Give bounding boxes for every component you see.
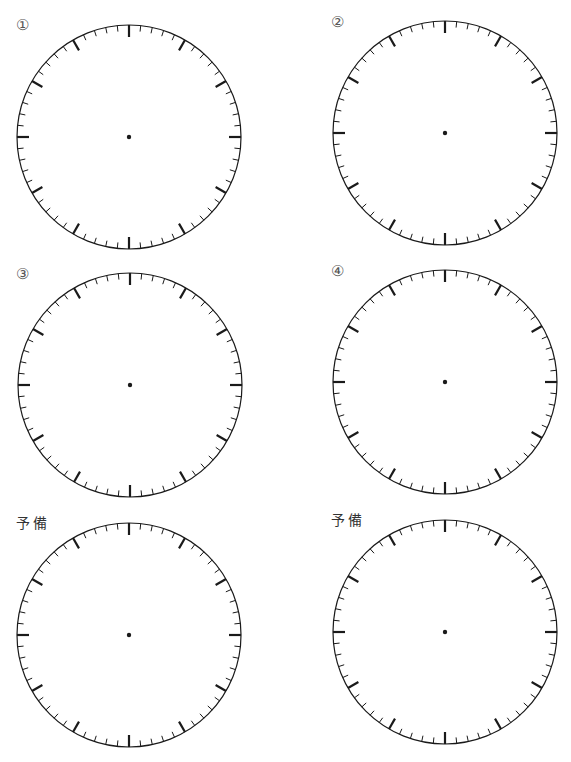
minute-tick <box>235 396 241 397</box>
minute-tick <box>191 223 195 228</box>
minute-tick <box>507 541 511 546</box>
minute-tick <box>162 30 164 36</box>
minute-tick <box>531 67 536 71</box>
minute-tick <box>191 721 195 726</box>
minute-tick <box>63 721 67 726</box>
minute-tick <box>379 42 383 47</box>
minute-tick <box>362 557 366 561</box>
minute-tick <box>550 121 556 122</box>
minute-tick <box>399 230 401 235</box>
minute-tick <box>433 238 434 244</box>
minute-tick <box>422 486 423 492</box>
minute-tick <box>379 541 383 546</box>
minute-tick <box>231 418 237 420</box>
hour-tick <box>495 36 501 46</box>
minute-tick <box>399 479 401 484</box>
minute-tick <box>550 643 556 644</box>
minute-tick <box>162 238 164 244</box>
minute-tick <box>46 62 50 66</box>
minute-tick <box>531 316 536 320</box>
minute-tick <box>19 657 25 658</box>
hour-tick <box>32 579 42 585</box>
minute-tick <box>83 732 85 737</box>
hour-tick <box>495 220 501 230</box>
minute-tick <box>216 447 221 451</box>
hour-tick <box>532 183 542 189</box>
hour-tick <box>216 81 226 87</box>
minute-tick <box>54 552 58 556</box>
minute-tick <box>151 241 152 247</box>
minute-tick <box>235 373 241 374</box>
minute-tick <box>226 91 231 93</box>
minute-tick <box>19 373 25 374</box>
hour-tick <box>495 535 501 545</box>
minute-tick <box>234 362 240 363</box>
minute-tick <box>362 703 366 707</box>
minute-tick <box>140 26 141 32</box>
minute-tick <box>362 58 366 62</box>
minute-tick <box>19 396 25 397</box>
minute-tick <box>531 444 536 448</box>
minute-tick <box>433 521 434 527</box>
minute-tick <box>531 195 536 199</box>
spare-clock-face-2 <box>329 516 561 748</box>
minute-tick <box>209 456 213 460</box>
minute-tick <box>63 223 67 228</box>
minute-tick <box>200 216 204 220</box>
minute-tick <box>201 464 205 468</box>
minute-tick <box>54 54 58 58</box>
minute-tick <box>118 490 119 496</box>
minute-tick <box>200 552 204 556</box>
hour-tick <box>389 535 395 545</box>
minute-tick <box>192 294 196 299</box>
minute-tick <box>410 26 412 32</box>
spare-clock-face-1 <box>13 519 245 751</box>
minute-tick <box>163 486 165 492</box>
minute-tick <box>334 620 340 621</box>
minute-tick <box>456 271 457 277</box>
minute-tick <box>230 170 236 172</box>
minute-tick <box>200 54 204 58</box>
minute-tick <box>27 180 32 182</box>
minute-tick <box>467 736 468 742</box>
minute-tick <box>64 471 68 476</box>
minute-tick <box>163 278 165 284</box>
minute-tick <box>22 600 28 602</box>
minute-tick <box>343 176 348 178</box>
minute-tick <box>84 283 86 288</box>
minute-tick <box>172 732 174 737</box>
minute-tick <box>335 404 341 405</box>
minute-tick <box>192 471 196 476</box>
minute-tick <box>370 461 374 465</box>
minute-tick <box>516 549 520 553</box>
minute-tick <box>191 544 195 549</box>
minute-tick <box>230 102 236 104</box>
minute-tick <box>335 609 341 610</box>
minute-tick <box>550 144 556 145</box>
minute-tick <box>83 533 85 538</box>
minute-tick <box>516 461 520 465</box>
minute-tick <box>507 42 511 47</box>
minute-tick <box>362 204 366 208</box>
hour-tick <box>216 187 226 193</box>
minute-tick <box>379 718 383 723</box>
minute-tick <box>546 166 552 168</box>
minute-tick <box>47 456 51 460</box>
minute-tick <box>215 199 220 203</box>
minute-tick <box>22 170 28 172</box>
minute-tick <box>516 711 520 715</box>
minute-tick <box>433 271 434 277</box>
minute-tick <box>173 283 175 288</box>
minute-tick <box>542 336 547 338</box>
minute-tick <box>542 586 547 588</box>
minute-tick <box>422 522 423 528</box>
minute-tick <box>208 208 212 212</box>
minute-tick <box>233 612 239 613</box>
minute-tick <box>456 737 457 743</box>
center-dot <box>127 135 131 139</box>
minute-tick <box>201 302 205 306</box>
minute-tick <box>379 219 383 224</box>
minute-tick <box>422 237 423 243</box>
minute-tick <box>226 678 231 680</box>
minute-tick <box>422 23 423 29</box>
